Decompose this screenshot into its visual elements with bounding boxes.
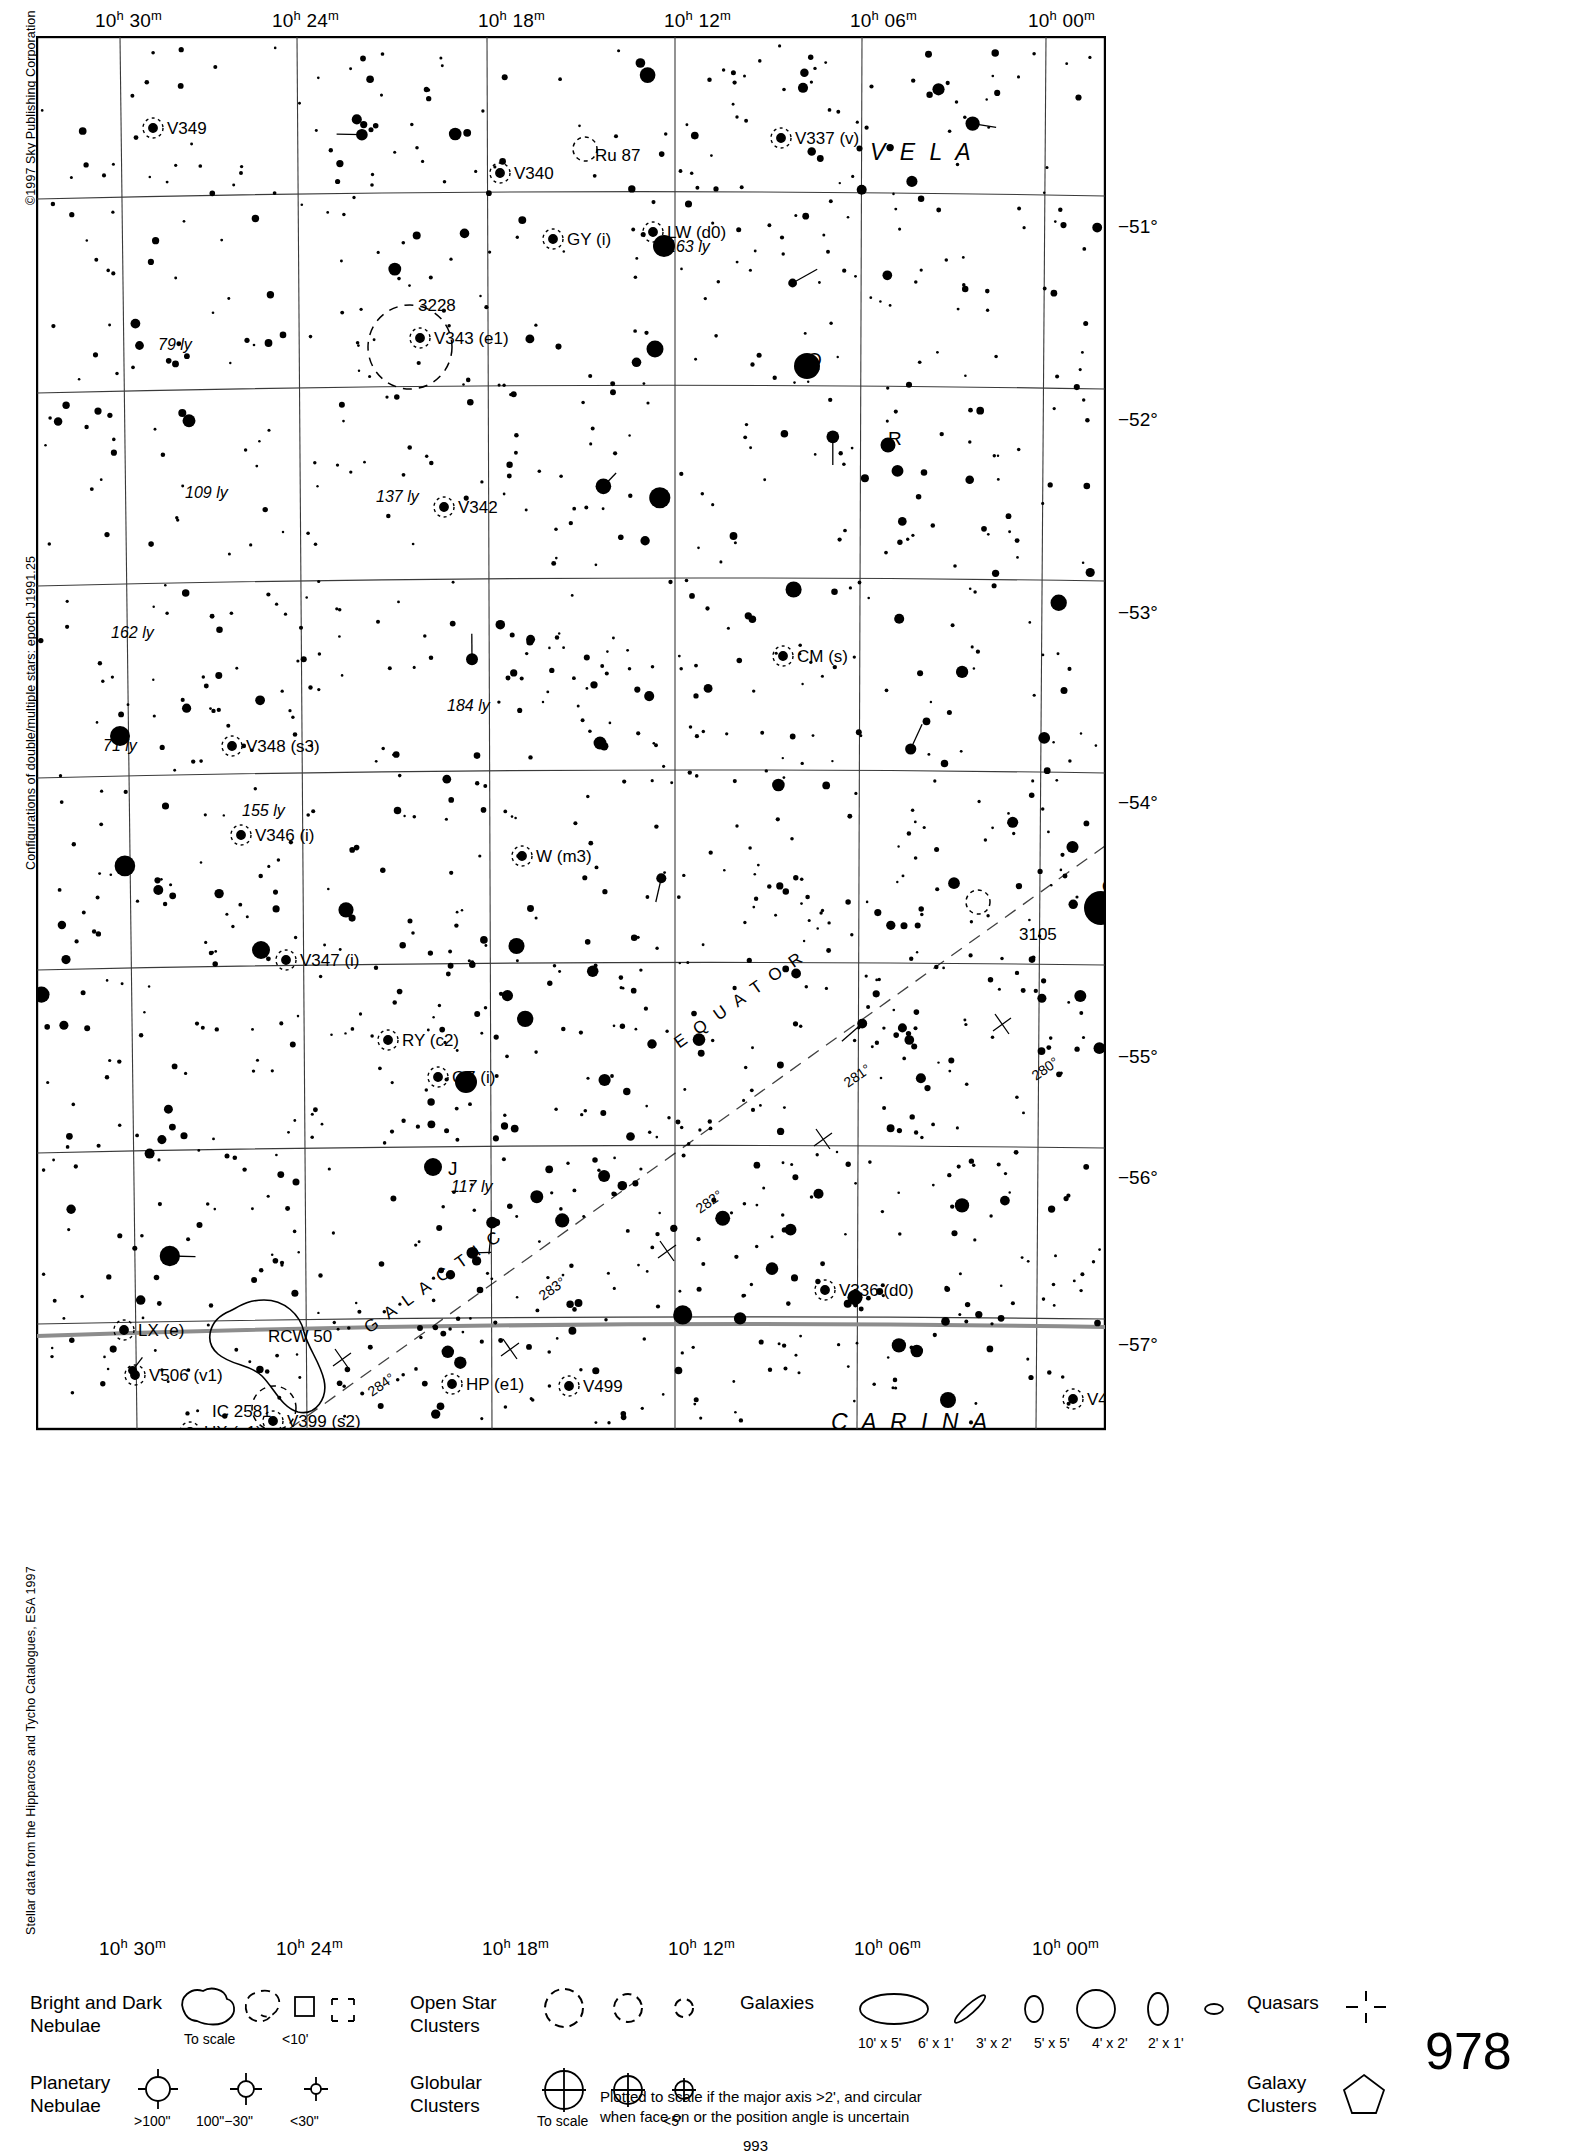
quasar-symbol — [1344, 1987, 1388, 2027]
planetary-nebula-symbols — [130, 2067, 380, 2111]
object-label-28: J — [448, 1158, 458, 1179]
dec-tick-0: −51° — [1118, 216, 1158, 238]
object-label-16: CM (s) — [797, 647, 848, 666]
variable-star-26 — [434, 1073, 442, 1081]
object-label-26: GZ (i) — [452, 1068, 495, 1087]
legend-galaxy-note-line1: Plotted to scale if the major axis >2', … — [600, 2087, 922, 2107]
object-label-0: V349 — [167, 119, 207, 138]
ra-tick-top-4: 10h 06m — [850, 8, 917, 32]
legend-title-quasars: Quasars — [1247, 1991, 1319, 2014]
object-label-4: GY (i) — [567, 230, 611, 249]
galaxy-symbols-legend — [858, 1985, 1258, 2031]
legend-open-line2: Clusters — [410, 2014, 497, 2037]
legend-open-line1: Open Star — [410, 1991, 497, 2014]
object-label-17: 184 ly — [447, 697, 491, 714]
ra-tick-top-2: 10h 18m — [478, 8, 545, 32]
object-label-13: 137 ly — [376, 488, 420, 505]
bright-star-7 — [940, 1392, 956, 1408]
legend-title-galaxy-clusters: Galaxy Clusters — [1247, 2071, 1317, 2117]
variable-star-25 — [282, 956, 290, 964]
bright-star-5 — [252, 941, 270, 959]
ra-tick-top-3: 10h 12m — [664, 8, 731, 32]
object-label-29: 117 ly — [451, 1178, 494, 1195]
object-label-32: RCW 50 — [268, 1327, 332, 1346]
constellation-label-carina: C A R I N A — [831, 1409, 991, 1435]
star-chart-map[interactable]: V349V340Ru 87V337 (v)GY (i)LW (d0)163 ly… — [36, 36, 1106, 1930]
open-cluster-symbols-legend — [538, 1985, 718, 2031]
ra-tick-bottom-3: 10h 12m — [668, 1936, 735, 1960]
legend-planetary-line2: Nebulae — [30, 2094, 110, 2117]
legend-caption-nebulae-small: <10' — [282, 2031, 308, 2047]
star-field-svg[interactable]: V349V340Ru 87V337 (v)GY (i)LW (d0)163 ly… — [36, 36, 1106, 1930]
object-label-22: W (m3) — [536, 847, 592, 866]
ra-tick-bottom-1: 10h 24m — [276, 1936, 343, 1960]
object-label-12: 109 ly — [185, 484, 229, 501]
legend-galaxies-line1: Galaxies — [740, 1991, 814, 2014]
chart-legend: Bright and Dark Nebulae To scale <10' Pl… — [0, 1975, 1572, 2146]
galaxy-caption-2: 3' x 2' — [976, 2035, 1012, 2051]
galaxy-caption-4: 4' x 2' — [1092, 2035, 1128, 2051]
object-label-6: 163 ly — [667, 238, 711, 255]
dec-tick-2: −53° — [1118, 602, 1158, 624]
object-label-11: R — [888, 428, 902, 449]
galaxy-caption-0: 10' x 5' — [858, 2035, 901, 2051]
object-label-7: 3228 — [418, 296, 456, 315]
legend-globular-line1: Globular — [410, 2071, 482, 2094]
object-label-34: HP (e1) — [466, 1375, 524, 1394]
legend-quasars-line1: Quasars — [1247, 1991, 1319, 2014]
ra-tick-top-5: 10h 00m — [1028, 8, 1095, 32]
variable-ring-40 — [275, 1432, 295, 1452]
object-label-18: 71 ly — [103, 737, 138, 754]
variable-star-4 — [549, 235, 557, 243]
legend-caption-pn-mid: 100"−30" — [196, 2113, 253, 2129]
object-label-33: V506 (v1) — [149, 1366, 223, 1385]
variable-star-16 — [779, 652, 787, 660]
variable-star-0 — [149, 124, 157, 132]
small-nebula-symbol — [330, 1997, 356, 2023]
variable-star-21 — [237, 831, 245, 839]
variable-star-40 — [281, 1438, 289, 1446]
constellation-label-vela: V E L A — [870, 139, 975, 165]
variable-star-14 — [440, 503, 448, 511]
legend-galaxy-note-line2: when face on or the position angle is un… — [600, 2107, 922, 2127]
page-number: 978 — [1425, 2021, 1512, 2081]
legend-gxc-line1: Galaxy — [1247, 2071, 1317, 2094]
object-label-1: V340 — [514, 164, 554, 183]
ra-tick-bottom-4: 10h 06m — [854, 1936, 921, 1960]
variable-star-5 — [649, 228, 657, 236]
object-label-35: V499 — [583, 1377, 623, 1396]
bright-star-8 — [647, 341, 664, 358]
footer-number: 993 — [743, 2137, 768, 2154]
legend-caption-nebulae-toscale: To scale — [184, 2031, 235, 2047]
legend-nebulae-line2: Nebulae — [30, 2014, 162, 2037]
galaxy-cluster-symbol — [1340, 2071, 1390, 2117]
dec-tick-6: −57° — [1118, 1334, 1158, 1356]
object-label-36: V423 — [1087, 1390, 1106, 1409]
galaxy-caption-5: 2' x 1' — [1148, 2035, 1184, 2051]
legend-globular-line2: Clusters — [410, 2094, 482, 2117]
object-label-27: RY (c2) — [402, 1031, 459, 1050]
object-label-9: 79 ly — [158, 336, 193, 353]
variable-star-30 — [821, 1286, 829, 1294]
ra-tick-bottom-2: 10h 18m — [482, 1936, 549, 1960]
object-label-40: V504 — [299, 1433, 339, 1452]
legend-title-open-clusters: Open Star Clusters — [410, 1991, 497, 2037]
object-label-20: 155 ly — [242, 802, 286, 819]
legend-nebulae-line1: Bright and Dark — [30, 1991, 162, 2014]
object-label-24: 3105 — [1019, 925, 1057, 944]
legend-title-nebulae: Bright and Dark Nebulae — [30, 1991, 162, 2037]
dec-tick-4: −55° — [1118, 1046, 1158, 1068]
ra-tick-bottom-0: 10h 30m — [99, 1936, 166, 1960]
galaxy-caption-3: 5' x 5' — [1034, 2035, 1070, 2051]
galaxy-caption-1: 6' x 1' — [918, 2035, 954, 2051]
legend-title-globular: Globular Clusters — [410, 2071, 482, 2117]
dec-tick-1: −52° — [1118, 409, 1158, 431]
legend-caption-gc-toscale: To scale — [537, 2113, 588, 2129]
legend-gxc-line2: Clusters — [1247, 2094, 1317, 2117]
object-label-39: UX (c1) — [204, 1423, 262, 1442]
variable-star-3 — [777, 134, 785, 142]
ra-tick-bottom-5: 10h 00m — [1032, 1936, 1099, 1960]
variable-star-36 — [1069, 1395, 1077, 1403]
variable-star-27 — [384, 1036, 392, 1044]
variable-star-31 — [120, 1326, 128, 1334]
